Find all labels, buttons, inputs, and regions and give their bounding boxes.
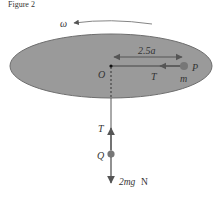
angular-velocity-arrow [74, 21, 152, 24]
header-fragment: Figure 2 [8, 0, 35, 9]
tension-label-bottom: T [98, 123, 105, 134]
diagram: Figure 2 ω 2.5a O T P m T Q 2mg N [0, 0, 223, 201]
omega-label: ω [60, 18, 67, 29]
origin-label: O [98, 69, 105, 80]
particle-q-label: Q [97, 150, 105, 161]
weight-label: 2mg [119, 177, 136, 187]
rotating-disc-diagram: Figure 2 ω 2.5a O T P m T Q 2mg N [0, 0, 223, 201]
particle-p-label: P [191, 62, 198, 73]
mass-label: m [180, 73, 187, 84]
particle-q [107, 150, 114, 157]
distance-label: 2.5a [138, 45, 156, 56]
weight-unit: N [141, 177, 148, 187]
particle-p [180, 62, 188, 70]
